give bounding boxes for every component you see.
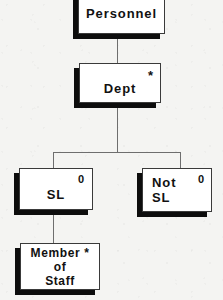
connector-branch-to-not-sl [180, 152, 181, 169]
connector-sl-to-member-of-staff [53, 215, 54, 244]
selection-zero-icon: 0 [78, 174, 84, 185]
structure-diagram: Personnel Dept * SL 0 Not SL 0 Member * … [0, 0, 223, 300]
connector-personnel-to-dept [117, 39, 118, 63]
node-label-personnel: Personnel [79, 6, 164, 21]
node-label-member-of-staff: Member * of Staff [21, 245, 99, 287]
node-label-sl: SL [20, 187, 92, 202]
node-member-of-staff[interactable]: Member * of Staff [20, 243, 100, 290]
node-not-sl[interactable]: Not SL 0 [142, 168, 212, 212]
branch-bar [53, 152, 181, 153]
iteration-asterisk-icon: * [148, 69, 153, 82]
connector-branch-to-sl [53, 152, 54, 169]
node-label-dept: Dept [80, 81, 160, 96]
node-personnel[interactable]: Personnel [78, 0, 165, 34]
node-dept[interactable]: Dept * [79, 63, 161, 103]
selection-zero-icon: 0 [198, 174, 204, 185]
connector-dept-to-branch-bar [117, 108, 118, 153]
node-sl[interactable]: SL 0 [19, 168, 93, 210]
